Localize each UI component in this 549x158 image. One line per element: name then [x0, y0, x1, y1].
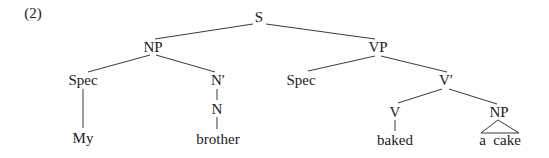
- edge-np-nbar: [156, 55, 215, 72]
- edge-vp-spec: [308, 56, 375, 71]
- leaf-brother: brother: [196, 132, 239, 147]
- node-vp: VP: [368, 40, 387, 55]
- node-s: S: [255, 10, 263, 25]
- node-v: V: [390, 105, 401, 120]
- node-spec-vp: Spec: [286, 73, 315, 88]
- example-number: (2): [24, 6, 42, 21]
- node-n: N: [212, 102, 223, 117]
- leaf-a-cake: a cake: [479, 133, 521, 148]
- leaf-baked: baked: [377, 133, 413, 148]
- edge-s-vp: [266, 24, 375, 39]
- leaf-my: My: [73, 131, 94, 146]
- edge-vbar-np: [449, 89, 497, 104]
- edge-np-spec: [88, 55, 150, 72]
- edge-vp-vbar: [381, 56, 447, 72]
- node-np-subject: NP: [143, 40, 162, 55]
- node-np-object: NP: [489, 105, 508, 120]
- node-n-bar: N′: [211, 73, 225, 88]
- node-spec-subject: Spec: [68, 73, 97, 88]
- syntax-tree-diagram: (2) S NP VP Spec N′ Spec V′ N V NP My br…: [0, 0, 549, 158]
- edge-vbar-v: [398, 89, 442, 103]
- edge-s-np: [155, 24, 253, 39]
- node-v-bar: V′: [439, 73, 453, 88]
